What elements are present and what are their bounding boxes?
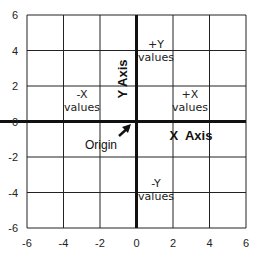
pos-y-values-label: values	[138, 51, 174, 64]
pos-x-values-label: values	[172, 101, 208, 114]
x-tick-label: 6	[243, 237, 249, 249]
x-tick-label: 2	[170, 237, 176, 249]
neg-y-values-label: values	[138, 190, 174, 203]
x-tick-label: -2	[95, 237, 105, 249]
neg-x-label: -X	[77, 88, 88, 101]
y-tick-label: 0	[12, 116, 18, 128]
pos-x-label: +X	[182, 88, 199, 101]
x-axis-title: X Axis	[170, 128, 213, 143]
y-axis-title: Y Axis	[115, 59, 130, 98]
coordinate-plane: -6-4-202466420-2-4-6 -X values +X values…	[0, 0, 260, 260]
pos-y-label: +Y	[148, 38, 164, 51]
arrow-icon	[119, 124, 131, 136]
origin-label: Origin	[85, 138, 117, 152]
y-tick-label: -4	[8, 187, 18, 199]
x-tick-label: -4	[59, 237, 69, 249]
x-tick-label: 4	[206, 237, 212, 249]
neg-y-label: -Y	[151, 177, 161, 190]
y-tick-label: 2	[12, 80, 18, 92]
y-tick-label: -2	[8, 151, 18, 163]
neg-x-values-label: values	[64, 101, 100, 114]
x-tick-label: 0	[133, 237, 139, 249]
x-tick-label: -6	[22, 237, 32, 249]
y-tick-label: 6	[12, 9, 18, 21]
y-tick-label: 4	[12, 45, 18, 57]
y-tick-label: -6	[8, 222, 18, 234]
